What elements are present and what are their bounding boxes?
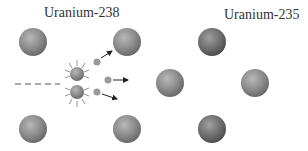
neutron-arrow bbox=[101, 51, 112, 58]
neutron bbox=[94, 59, 101, 66]
nucleus bbox=[241, 69, 269, 97]
nucleus bbox=[156, 69, 184, 97]
fission-diagram bbox=[0, 0, 308, 151]
fission-fragment bbox=[70, 85, 84, 99]
nucleus-u238 bbox=[113, 28, 141, 56]
neutron-arrow bbox=[102, 94, 117, 99]
nucleus-u238 bbox=[19, 28, 47, 56]
nucleus-u238 bbox=[19, 115, 47, 143]
nucleus-u235 bbox=[198, 28, 226, 56]
neutron bbox=[94, 89, 101, 96]
nucleus-u238 bbox=[113, 115, 141, 143]
fission-fragment bbox=[70, 67, 84, 81]
nucleus-u235 bbox=[198, 115, 226, 143]
neutron bbox=[105, 77, 112, 84]
